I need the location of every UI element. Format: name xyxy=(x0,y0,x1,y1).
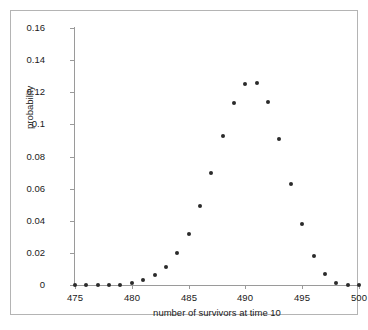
data-point xyxy=(312,254,316,258)
y-tick-label: 0.08 xyxy=(27,152,46,162)
data-point xyxy=(209,171,213,175)
data-point xyxy=(323,272,327,276)
data-point xyxy=(187,232,191,236)
x-tick-label: 500 xyxy=(339,292,368,303)
data-point xyxy=(118,283,122,287)
x-tick-label: 485 xyxy=(169,292,209,303)
data-point xyxy=(346,283,350,287)
x-tick-label: 480 xyxy=(112,292,152,303)
chart-frame: 00.020.040.060.080.10.120.140.16 4754804… xyxy=(10,10,358,315)
y-tick-label: 0 xyxy=(40,280,45,290)
x-tick xyxy=(132,285,133,289)
x-axis-title: number of survivors at time 10 xyxy=(75,307,359,318)
chart-figure: 00.020.040.060.080.10.120.140.16 4754804… xyxy=(0,0,368,330)
x-tick-label: 475 xyxy=(55,292,95,303)
y-tick-label: 0.04 xyxy=(27,216,46,226)
x-tick-label: 495 xyxy=(282,292,322,303)
x-tick xyxy=(245,285,246,289)
data-point xyxy=(255,81,259,85)
data-point xyxy=(153,273,157,277)
y-tick-label: 0.02 xyxy=(27,248,46,258)
y-tick-label: 0.16 xyxy=(27,23,46,33)
x-tick xyxy=(189,285,190,289)
y-axis-title: probability xyxy=(24,86,35,129)
x-axis-line xyxy=(74,285,360,286)
plot-area xyxy=(75,28,359,285)
data-point xyxy=(107,283,111,287)
data-point xyxy=(289,182,293,186)
data-point xyxy=(96,283,100,287)
data-point xyxy=(266,100,270,104)
data-point xyxy=(73,283,77,287)
data-point xyxy=(84,283,88,287)
x-tick-label: 490 xyxy=(225,292,265,303)
y-tick-label: 0.06 xyxy=(27,184,46,194)
x-tick xyxy=(302,285,303,289)
y-tick-label: 0.14 xyxy=(27,55,46,65)
data-point xyxy=(357,283,361,287)
data-point xyxy=(221,134,225,138)
